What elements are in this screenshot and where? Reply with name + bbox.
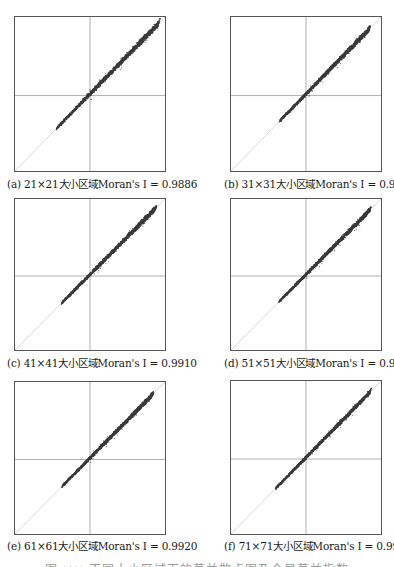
figure-caption-clip: 图 ×× 不同大小区域下的莫兰散点图及全局莫兰指数 [0,560,394,567]
caption-b: (b) 31×31大小区域Moran's I = 0.9908 [224,176,394,191]
scatter-points [275,388,372,490]
figure-caption: 图 ×× 不同大小区域下的莫兰散点图及全局莫兰指数 [0,560,394,567]
scatter-svg [15,17,165,171]
scatter-plot-a [14,16,166,172]
scatter-plot-d [230,198,382,351]
scatter-svg [15,382,165,534]
scatter-plot-f [230,380,382,535]
scatter-svg [15,199,165,350]
caption-a: (a) 21×21大小区域Moran's I = 0.9886 [7,176,197,191]
caption-e: (e) 61×61大小区域Moran's I = 0.9920 [7,538,197,553]
scatter-points [61,205,157,305]
scatter-svg [231,199,381,350]
scatter-points [56,18,161,130]
scatter-svg [231,381,381,534]
scatter-svg [231,17,381,171]
scatter-plot-c [14,198,166,351]
scatter-plot-e [14,381,166,535]
caption-d: (d) 51×51大小区域Moran's I = 0.9915 [224,355,394,370]
caption-c: (c) 41×41大小区域Moran's I = 0.9910 [7,355,197,370]
caption-f: (f) 71×71大小区域Moran's I = 0.9927 [224,538,394,553]
scatter-points [279,25,371,122]
scatter-points [61,391,154,488]
scatter-plot-b [230,16,382,172]
scatter-points [278,206,372,303]
